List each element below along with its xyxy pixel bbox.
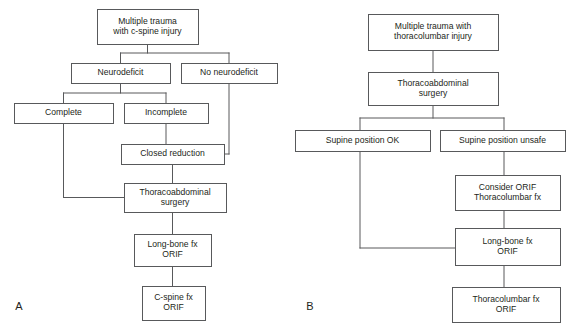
node-long-bone-fx-orif: Long-bone fxORIF bbox=[135, 235, 212, 267]
node-label-line: Long-bone fx bbox=[147, 239, 198, 249]
panel-letter-a: A bbox=[15, 300, 23, 312]
figure-root: Multiple traumawith c-spine injuryNeurod… bbox=[0, 0, 578, 334]
node-label-line: with c-spine injury bbox=[112, 26, 182, 36]
panel-letter-b: B bbox=[306, 300, 313, 312]
panel-a: Multiple traumawith c-spine injuryNeurod… bbox=[15, 10, 278, 321]
node-incomplete: Incomplete bbox=[125, 104, 209, 124]
node-label-line: ORIF bbox=[163, 302, 184, 312]
node-multiple-trauma-c-spine-injury: Multiple traumawith c-spine injury bbox=[98, 10, 199, 45]
node-supine-position-unsafe: Supine position unsafe bbox=[441, 131, 566, 152]
node-label-line: Supine position unsafe bbox=[459, 135, 546, 145]
panels-layer: Multiple traumawith c-spine injuryNeurod… bbox=[15, 10, 566, 323]
node-label-line: Incomplete bbox=[145, 107, 187, 117]
node-label-line: Multiple trauma with bbox=[395, 21, 472, 31]
node-label-line: ORIF bbox=[497, 246, 518, 256]
node-label-line: Thoracoabdominal bbox=[139, 187, 210, 197]
node-consider-orif-thoracolumbar-fx: Consider ORIFThoracolumbar fx bbox=[456, 176, 561, 211]
node-label-line: Supine position OK bbox=[326, 135, 400, 145]
node-c-spine-fx-orif: C-spine fxORIF bbox=[143, 287, 206, 321]
node-long-bone-fx-orif: Long-bone fxORIF bbox=[456, 229, 561, 266]
node-thoracoabdominal-surgery: Thoracoabdominalsurgery bbox=[125, 184, 227, 213]
node-closed-reduction: Closed reduction bbox=[122, 145, 225, 165]
node-label-line: ORIF bbox=[496, 304, 517, 314]
node-label-line: Thoracolumbar fx bbox=[473, 294, 541, 304]
node-label-line: Multiple trauma bbox=[118, 16, 177, 26]
node-label-line: Consider ORIF bbox=[479, 182, 536, 192]
node-label-line: No neurodeficit bbox=[200, 67, 258, 77]
panel-b: Multiple trauma withthoracolumbar injury… bbox=[296, 15, 566, 323]
node-label-line: ORIF bbox=[162, 249, 183, 259]
node-thoracoabdominal-surgery: Thoracoabdominalsurgery bbox=[369, 73, 499, 106]
node-no-neurodeficit: No neurodeficit bbox=[182, 64, 278, 84]
node-label-line: surgery bbox=[419, 88, 448, 98]
node-label-line: thoracolumbar injury bbox=[394, 31, 473, 41]
node-supine-position-ok: Supine position OK bbox=[296, 131, 431, 152]
node-label-line: surgery bbox=[161, 197, 190, 207]
flowchart-canvas: Multiple traumawith c-spine injuryNeurod… bbox=[0, 0, 578, 334]
node-label-line: Closed reduction bbox=[140, 148, 205, 158]
node-label-line: Thoracolumbar fx bbox=[474, 192, 542, 202]
node-thoracolumbar-fx-orif: Thoracolumbar fxORIF bbox=[453, 288, 561, 323]
node-label-line: Long-bone fx bbox=[482, 236, 533, 246]
node-complete: Complete bbox=[15, 104, 114, 124]
node-label-line: Thoracoabdominal bbox=[397, 78, 468, 88]
node-label-line: Neurodeficit bbox=[98, 67, 144, 77]
node-label-line: C-spine fx bbox=[154, 292, 193, 302]
node-multiple-trauma-thoracolumbar-injury: Multiple trauma withthoracolumbar injury bbox=[369, 15, 499, 51]
node-label-line: Complete bbox=[45, 107, 82, 117]
node-neurodeficit: Neurodeficit bbox=[72, 64, 171, 84]
